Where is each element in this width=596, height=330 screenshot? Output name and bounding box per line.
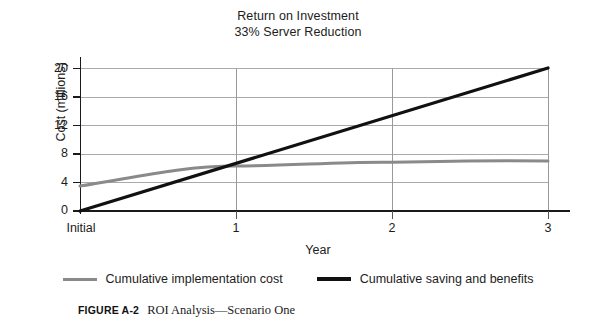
legend-swatch-implementation-cost (63, 278, 97, 281)
x-tick-label-initial: Initial (48, 221, 114, 235)
y-tick-label-4: 4 (42, 175, 68, 189)
figure-caption: FIGURE A-2 ROI Analysis—Scenario One (78, 303, 295, 318)
x-axis-title: Year (70, 243, 566, 257)
y-tick-label-0: 0 (42, 203, 68, 217)
x-tick-marks (236, 211, 548, 219)
legend-label-implementation-cost: Cumulative implementation cost (106, 272, 283, 286)
y-axis-title: Cost (millions) (54, 47, 68, 157)
series-line-savings-benefits (80, 68, 548, 211)
x-tick-label-1: 1 (216, 221, 256, 235)
legend-swatch-savings-benefits (317, 277, 351, 281)
legend-item-savings-benefits: Cumulative saving and benefits (317, 272, 534, 286)
figure-container: Return on Investment 33% Server Reductio… (0, 0, 596, 330)
y-tick-marks (73, 69, 80, 212)
chart-legend: Cumulative implementation cost Cumulativ… (0, 272, 596, 286)
figure-number: FIGURE A-2 (78, 304, 139, 316)
x-tick-label-2: 2 (372, 221, 412, 235)
figure-caption-text: ROI Analysis—Scenario One (147, 303, 295, 318)
legend-label-savings-benefits: Cumulative saving and benefits (360, 272, 534, 286)
gridlines (80, 69, 548, 183)
legend-item-implementation-cost: Cumulative implementation cost (63, 272, 283, 286)
x-tick-label-3: 3 (528, 221, 568, 235)
category-lines (236, 69, 548, 212)
